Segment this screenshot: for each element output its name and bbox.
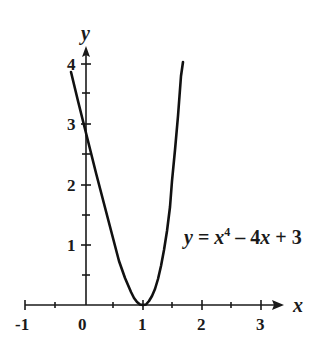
y-tick-label: 3 (67, 115, 76, 134)
eq-x: x (214, 226, 224, 248)
eq-term: + 3 (270, 226, 301, 248)
y-tick-label: 4 (67, 55, 76, 74)
x-axis-label: x (292, 294, 303, 316)
eq-x: x (260, 226, 270, 248)
x-tick-label: 2 (197, 315, 206, 334)
x-tick-label: 3 (256, 315, 265, 334)
x-axis (25, 300, 280, 310)
y-tick-label: 2 (67, 176, 76, 195)
eq-y: y (184, 226, 193, 248)
y-axis-label: y (79, 22, 90, 45)
y-tick-label: 1 (67, 236, 76, 255)
eq-equals: = (193, 226, 214, 248)
x-tick-label: 0 (78, 315, 87, 334)
curve-x4-minus-4x-plus-3 (71, 62, 183, 305)
eq-term: – 4 (230, 226, 260, 248)
y-axis (81, 52, 91, 305)
x-tick-label: 1 (138, 315, 147, 334)
x-tick-label: -1 (15, 315, 29, 334)
plot-area: -1 0 1 2 3 1 2 3 4 x y (0, 0, 318, 346)
equation-annotation: y = x4 – 4x + 3 (184, 226, 302, 249)
